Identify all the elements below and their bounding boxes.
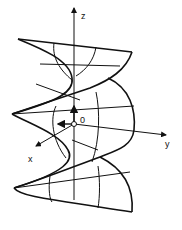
x-axis-label: x (28, 155, 33, 164)
y-axis (74, 124, 166, 135)
helicoid-diagram (0, 0, 182, 230)
bottom-edge (14, 188, 132, 212)
origin-point (72, 122, 77, 127)
outer-curve-upper (12, 39, 72, 114)
x-axis (36, 124, 74, 146)
origin-label: 0 (80, 116, 85, 125)
outer-curve-right-low (100, 157, 132, 212)
y-axis-label: y (165, 140, 170, 149)
z-axis-label: z (81, 12, 86, 21)
